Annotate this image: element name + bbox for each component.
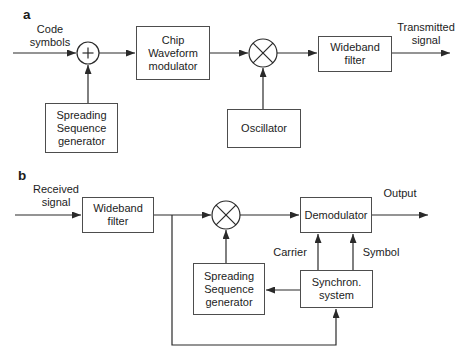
b-spreading-sequence-generator-label: Spreading Sequence generator bbox=[204, 270, 254, 309]
synchron-system-label: Synchron. system bbox=[312, 276, 362, 302]
chip-waveform-modulator-label: Chip Waveform modulator bbox=[148, 34, 198, 73]
a-wideband-filter-box: Wideband filter bbox=[318, 36, 392, 72]
demodulator-label: Demodulator bbox=[305, 209, 368, 222]
panel-a-label: a bbox=[23, 7, 31, 22]
b-spreading-sequence-generator-box: Spreading Sequence generator bbox=[193, 263, 265, 315]
a-multiplier-icon bbox=[249, 39, 277, 67]
b-input-signal-label: Received signal bbox=[26, 183, 86, 208]
block-diagram-figure: a Code symbols Chip Waveform modulator W… bbox=[0, 0, 461, 355]
output-label: Output bbox=[375, 187, 425, 200]
demodulator-box: Demodulator bbox=[300, 197, 372, 233]
b-wideband-filter-box: Wideband filter bbox=[82, 197, 154, 233]
b-multiplier-icon bbox=[212, 201, 240, 229]
a-input-signal-label: Code symbols bbox=[20, 23, 80, 48]
oscillator-box: Oscillator bbox=[227, 109, 301, 148]
panel-b-label: b bbox=[18, 168, 26, 183]
chip-waveform-modulator-box: Chip Waveform modulator bbox=[136, 26, 210, 80]
a-spreading-sequence-generator-label: Spreading Sequence generator bbox=[56, 109, 106, 148]
b-wideband-filter-label: Wideband filter bbox=[93, 202, 143, 228]
symbol-label: Symbol bbox=[359, 246, 403, 259]
synchron-system-box: Synchron. system bbox=[300, 270, 373, 308]
carrier-label: Carrier bbox=[268, 246, 312, 259]
a-spreading-sequence-generator-box: Spreading Sequence generator bbox=[45, 103, 118, 153]
adder-icon bbox=[77, 42, 99, 64]
a-wideband-filter-label: Wideband filter bbox=[330, 41, 380, 67]
oscillator-label: Oscillator bbox=[241, 122, 287, 135]
transmitted-signal-label: Transmitted signal bbox=[390, 21, 461, 46]
